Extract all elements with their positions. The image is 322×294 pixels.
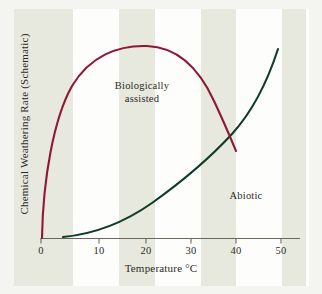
x-tick-label-0: 0 [26, 245, 56, 256]
figure-container: 0 10 20 30 40 50 Temperature °C Chemical… [0, 0, 322, 294]
x-tick-label-50: 50 [266, 245, 296, 256]
x-tick-label-30: 30 [176, 245, 206, 256]
chart-panel [14, 9, 309, 286]
x-tick-label-10: 10 [84, 245, 114, 256]
y-axis-title: Chemical Weathering Rate (Schematic) [18, 14, 30, 234]
biologically-assisted-label-line2: assisted [125, 93, 159, 104]
background-band-4 [306, 9, 309, 286]
x-tick-label-40: 40 [221, 245, 251, 256]
biologically-assisted-label: Biologically assisted [96, 79, 188, 105]
x-axis-title: Temperature °C [0, 262, 322, 274]
abiotic-label: Abiotic [214, 189, 278, 202]
x-tick-label-20: 20 [131, 245, 161, 256]
biologically-assisted-label-line1: Biologically [115, 80, 169, 91]
